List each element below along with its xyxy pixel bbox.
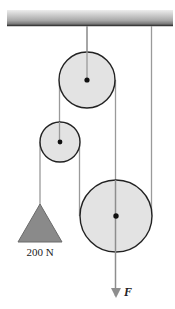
- pulley-small: [40, 122, 80, 162]
- axle-icon: [84, 77, 89, 82]
- pulley-large: [80, 180, 152, 296]
- axle-icon: [58, 140, 63, 145]
- pulley-diagram: 200 N F: [0, 0, 175, 309]
- force-arrow-icon: [111, 288, 121, 298]
- load-label: 200 N: [26, 246, 53, 258]
- weight-load: [18, 204, 62, 242]
- ceiling: [7, 10, 173, 26]
- force-label: F: [123, 285, 132, 299]
- axle-icon: [113, 213, 118, 218]
- pulley-top: [59, 26, 115, 108]
